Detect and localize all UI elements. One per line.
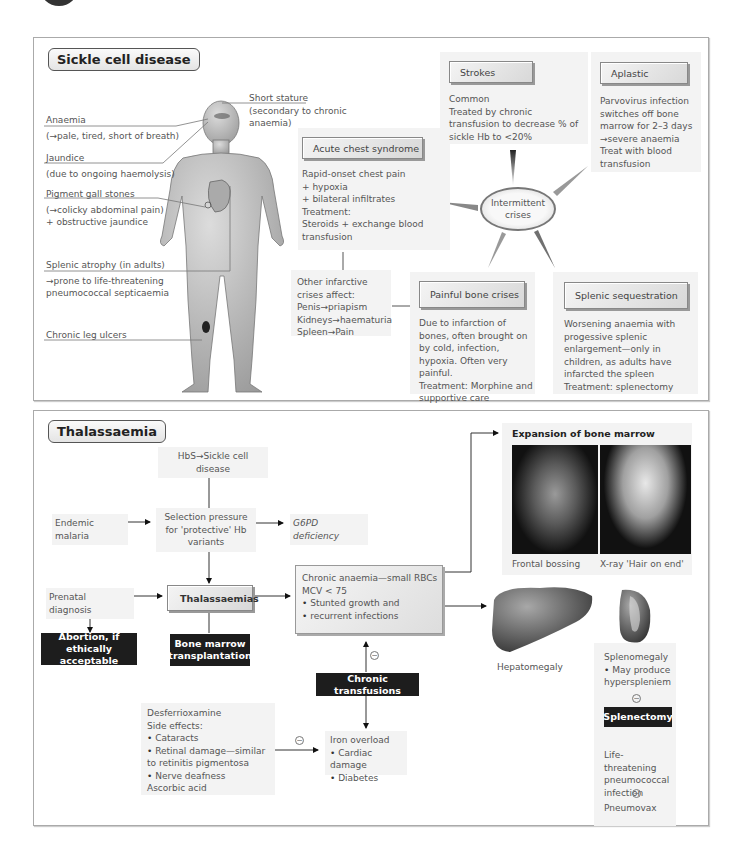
liver-illustration: [492, 587, 592, 652]
bmt-node: Bone marrow transplantation: [170, 634, 250, 666]
human-body-figure: [160, 101, 283, 392]
g6pd-node: G6PD deficiency: [290, 514, 368, 545]
label-gall-stones: Pigment gall stones (→colicky abdominal …: [46, 188, 164, 229]
iron-overload-node: Iron overload Cardiac damage Diabetes: [325, 731, 407, 775]
splenic-sequestration-text: Worsening anaemia with progessive spleni…: [564, 318, 694, 393]
inhibit-icon: −: [295, 736, 304, 745]
chronic-anaemia-node: Chronic anaemia—small RBCs MCV < 75 Stun…: [295, 565, 443, 634]
aplastic-text: Parvovirus infection switches off bone m…: [600, 95, 700, 170]
prenatal-node: Prenatal diagnosis: [46, 588, 134, 619]
hbs-node: HbS→Sickle cell disease: [158, 447, 268, 478]
strokes-text: Common Treated by chronic transfusion to…: [449, 93, 584, 143]
thalassaemia-title: Thalassaemia: [48, 420, 166, 443]
intermittent-crises-node: Intermittent crises: [480, 187, 556, 231]
label-short-stature: Short stature (secondary to chronic anae…: [249, 92, 364, 130]
label-anaemia: Anaemia (→pale, tired, short of breath): [46, 114, 179, 142]
inhibit-icon: −: [632, 789, 641, 798]
inhibit-icon: −: [632, 694, 641, 703]
bone-crises-text: Due to infarction of bones, often brough…: [419, 317, 534, 405]
acute-chest-title: Acute chest syndrome: [302, 137, 423, 159]
chronic-transfusions-node: Chronic transfusions: [316, 673, 419, 696]
bone-crises-title: Painful bone crises: [419, 281, 525, 308]
strokes-title: Strokes: [449, 61, 533, 83]
selection-pressure-node: Selection pressure for 'protective' Hb v…: [156, 508, 256, 552]
expansion-title: Expansion of bone marrow: [512, 428, 655, 441]
splenomegaly-node: Splenomegaly May produce hyperspleniem: [604, 651, 674, 689]
pneumovax-node: Pneumovax: [604, 802, 657, 815]
splenic-sequestration-title: Splenic sequestration: [564, 282, 688, 309]
xray-hair-on-end-photo: [600, 445, 691, 554]
aplastic-title: Aplastic: [600, 62, 688, 84]
label-splenic-atrophy: Splenic atrophy (in adults) →prone to li…: [46, 259, 171, 300]
label-leg-ulcers: Chronic leg ulcers: [46, 329, 127, 342]
malaria-node: Endemic malaria: [52, 514, 128, 545]
acute-chest-text: Rapid-onset chest pain + hypoxia + bilat…: [302, 168, 442, 243]
other-infarctive-text: Other infarctive crises affect: Penis→pr…: [297, 276, 392, 339]
inhibit-icon: −: [370, 651, 379, 660]
sickle-cell-title: Sickle cell disease: [48, 48, 200, 71]
frontal-bossing-photo: [512, 445, 598, 554]
xray-caption: X-ray 'Hair on end': [600, 558, 684, 571]
frontal-bossing-caption: Frontal bossing: [512, 558, 580, 571]
label-jaundice: Jaundice (due to ongoing haemolysis): [46, 152, 175, 180]
abortion-node: Abortion, if ethically acceptable: [41, 633, 137, 665]
desferrioxamine-node: Desferrioxamine Side effects: Cataracts …: [141, 703, 275, 795]
splenectomy-node: Splenectomy: [604, 707, 672, 727]
hepatomegaly-label: Hepatomegaly: [497, 661, 563, 674]
thalassaemias-node: Thalassaemias: [167, 585, 253, 611]
